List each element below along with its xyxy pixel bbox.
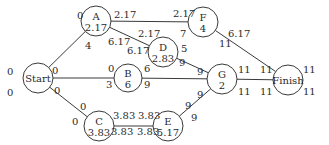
- time-label: 0: [80, 101, 86, 112]
- node-g: G2: [207, 64, 237, 94]
- node-name: E: [164, 116, 171, 127]
- time-label: 6.17: [127, 45, 149, 56]
- time-label: 4: [85, 40, 91, 51]
- time-label: 11: [303, 64, 316, 75]
- node-name: Start: [25, 73, 51, 84]
- node-duration: 5.17: [157, 127, 179, 138]
- time-label: 0: [54, 85, 60, 96]
- time-label: 0: [72, 116, 78, 127]
- edge-g-finish: [237, 79, 273, 80]
- time-label: 2.17: [173, 8, 195, 19]
- time-label: 2.17: [138, 28, 160, 39]
- node-start: Start: [23, 63, 53, 93]
- time-label: 9: [191, 112, 197, 123]
- node-c: C3.83: [84, 111, 114, 141]
- node-name: D: [159, 42, 167, 53]
- time-label: 3.83: [111, 126, 133, 137]
- node-duration: 2: [219, 80, 225, 91]
- time-label: 0: [52, 65, 58, 76]
- node-duration: 4: [200, 23, 206, 34]
- node-duration: 2.17: [85, 22, 107, 33]
- time-label: 9: [144, 79, 150, 90]
- time-label: 9: [197, 66, 203, 77]
- time-label: 0: [108, 63, 114, 74]
- time-label: 11: [219, 38, 232, 49]
- time-label: 6: [144, 63, 150, 74]
- time-label: 11: [260, 86, 273, 97]
- time-label: 5: [181, 43, 187, 54]
- node-duration: 2.83: [152, 53, 174, 64]
- node-name: B: [124, 68, 131, 79]
- time-label: 2.17: [114, 9, 136, 20]
- node-name: A: [91, 11, 100, 22]
- node-duration: 6: [125, 79, 131, 90]
- time-label: 7: [180, 28, 186, 39]
- time-label: 3.83: [113, 110, 135, 121]
- edge-start-a: [49, 32, 86, 68]
- time-label: 11: [303, 86, 316, 97]
- time-label: 9: [185, 100, 191, 111]
- time-label: 9: [179, 57, 185, 68]
- time-label: 3.83: [138, 110, 160, 121]
- time-label: 0: [7, 66, 13, 77]
- edge-a-f: [111, 21, 188, 22]
- time-label: 3.83: [137, 126, 159, 137]
- node-name: Finish: [272, 75, 304, 86]
- node-d: D2.83: [148, 37, 178, 67]
- time-label: 11: [238, 64, 251, 75]
- node-a: A2.17: [81, 6, 111, 36]
- time-label: 9: [197, 89, 203, 100]
- activity-network-diagram: StartA2.17B6C3.83D2.83E5.17F4G2Finish 00…: [0, 0, 329, 145]
- time-label: 0: [7, 87, 13, 98]
- edge-b-g: [142, 78, 207, 79]
- node-finish: Finish: [272, 65, 304, 95]
- time-label: 11: [238, 86, 251, 97]
- node-name: G: [218, 69, 226, 80]
- time-label: 0: [77, 10, 83, 21]
- time-label: 11: [260, 64, 273, 75]
- node-name: C: [95, 116, 103, 127]
- node-name: F: [200, 12, 207, 23]
- node-b: B6: [114, 64, 142, 92]
- node-duration: 3.83: [88, 127, 110, 138]
- time-label: 3: [106, 79, 112, 90]
